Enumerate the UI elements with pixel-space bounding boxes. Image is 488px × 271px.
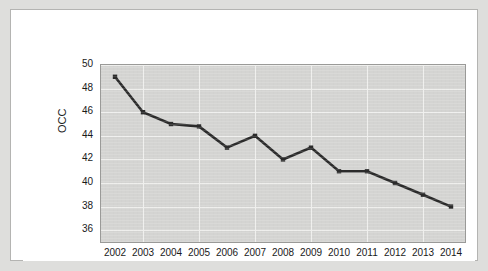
y-axis-tick-label: 50	[67, 59, 93, 69]
y-axis-tick-label: 40	[67, 177, 93, 187]
data-series-line	[101, 65, 465, 242]
data-point-marker	[309, 145, 313, 149]
figure-panel: OCC 3638404244464850 2002200320042005200…	[23, 21, 475, 261]
data-point-marker	[141, 110, 145, 114]
y-axis-tick-label: 46	[67, 106, 93, 116]
data-point-marker	[393, 181, 397, 185]
data-point-markers	[113, 75, 453, 209]
data-point-marker	[421, 193, 425, 197]
x-axis-tick-label: 2014	[431, 247, 471, 258]
y-axis-tick-label: 48	[67, 83, 93, 93]
y-axis-tick-label: 38	[67, 201, 93, 211]
data-point-marker	[197, 124, 201, 128]
data-point-marker	[449, 204, 453, 208]
figure-outer-frame: OCC 3638404244464850 2002200320042005200…	[0, 0, 488, 271]
y-axis-tick-label: 36	[67, 224, 93, 234]
plot-area	[100, 64, 466, 243]
data-point-marker	[225, 145, 229, 149]
data-point-marker	[337, 169, 341, 173]
data-point-marker	[281, 157, 285, 161]
figure-border: OCC 3638404244464850 2002200320042005200…	[10, 9, 478, 261]
y-axis-tick-label: 42	[67, 153, 93, 163]
data-point-marker	[365, 169, 369, 173]
data-point-marker	[113, 75, 117, 79]
y-axis-tick-label: 44	[67, 130, 93, 140]
data-point-marker	[253, 134, 257, 138]
data-point-marker	[169, 122, 173, 126]
